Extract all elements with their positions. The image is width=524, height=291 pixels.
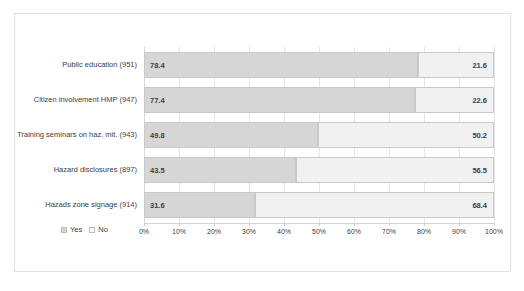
bar-segment-yes[interactable]: 77.4 <box>144 87 415 113</box>
bar-segment-yes[interactable]: 49.8 <box>144 122 318 148</box>
x-tick-label: 90% <box>452 228 466 235</box>
bar-segment-yes[interactable]: 43.5 <box>144 157 296 183</box>
bar-value-label-no: 21.6 <box>472 60 487 69</box>
x-tick-label: 40% <box>277 228 291 235</box>
gridline-100 <box>494 47 495 223</box>
x-tick-label: 100% <box>485 228 503 235</box>
bar-row[interactable]: 49.850.2 <box>144 122 494 148</box>
x-tick-label: 70% <box>382 228 396 235</box>
bar-segment-no[interactable]: 68.4 <box>255 192 494 218</box>
x-tick-mark <box>249 223 250 226</box>
x-axis: 0%10%20%30%40%50%60%70%80%90%100% <box>144 223 494 241</box>
category-axis: Public education (951)Citizen involvemen… <box>15 47 141 223</box>
bar-value-label-yes: 49.8 <box>150 131 165 140</box>
x-tick-mark <box>284 223 285 226</box>
bar-segment-no[interactable]: 56.5 <box>296 157 494 183</box>
bar-value-label-yes: 31.6 <box>150 201 165 210</box>
plot-area: 78.421.677.422.649.850.243.556.531.668.4 <box>144 47 494 223</box>
x-tick-label: 30% <box>242 228 256 235</box>
x-tick-mark <box>179 223 180 226</box>
bar-row[interactable]: 77.422.6 <box>144 87 494 113</box>
bar-value-label-yes: 78.4 <box>150 60 165 69</box>
category-label: Public education (951) <box>62 52 137 78</box>
bar-value-label-yes: 43.5 <box>150 166 165 175</box>
x-tick-mark <box>319 223 320 226</box>
legend-item-no[interactable]: No <box>89 225 108 234</box>
bar-segment-yes[interactable]: 31.6 <box>144 192 255 218</box>
x-tick-label: 60% <box>347 228 361 235</box>
bar-segment-yes[interactable]: 78.4 <box>144 52 418 78</box>
category-label: Citizen involvement HMP (947) <box>34 87 137 113</box>
x-tick-label: 80% <box>417 228 431 235</box>
category-label: Training seminars on haz. mit. (943) <box>17 122 137 148</box>
x-tick-mark <box>459 223 460 226</box>
legend-label: Yes <box>70 225 82 234</box>
bar-value-label-yes: 77.4 <box>150 95 165 104</box>
bar-segment-no[interactable]: 50.2 <box>318 122 494 148</box>
bar-row[interactable]: 43.556.5 <box>144 157 494 183</box>
no-swatch-icon <box>89 227 95 233</box>
bars-layer: 78.421.677.422.649.850.243.556.531.668.4 <box>144 47 494 223</box>
x-tick-mark <box>494 223 495 226</box>
bar-value-label-no: 22.6 <box>472 95 487 104</box>
bar-value-label-no: 50.2 <box>472 131 487 140</box>
chart-legend: YesNo <box>61 225 108 234</box>
x-tick-label: 10% <box>172 228 186 235</box>
bar-row[interactable]: 31.668.4 <box>144 192 494 218</box>
category-label: Hazard disclosures (897) <box>54 157 137 183</box>
x-tick-mark <box>424 223 425 226</box>
bar-value-label-no: 68.4 <box>472 201 487 210</box>
x-tick-mark <box>354 223 355 226</box>
bar-value-label-no: 56.5 <box>472 166 487 175</box>
x-tick-label: 50% <box>312 228 326 235</box>
x-tick-label: 20% <box>207 228 221 235</box>
bar-segment-no[interactable]: 22.6 <box>415 87 494 113</box>
legend-item-yes[interactable]: Yes <box>61 225 82 234</box>
bar-segment-no[interactable]: 21.6 <box>418 52 494 78</box>
x-tick-mark <box>144 223 145 226</box>
chart-frame: Public education (951)Citizen involvemen… <box>14 13 511 272</box>
bar-row[interactable]: 78.421.6 <box>144 52 494 78</box>
x-tick-mark <box>389 223 390 226</box>
x-tick-mark <box>214 223 215 226</box>
legend-label: No <box>98 225 108 234</box>
yes-swatch-icon <box>61 227 67 233</box>
category-label: Hazads zone signage (914) <box>45 192 137 218</box>
x-tick-label: 0% <box>139 228 149 235</box>
